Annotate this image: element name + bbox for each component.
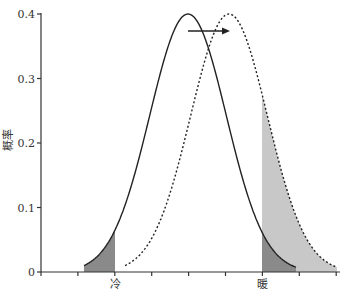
x-category-label: 冷 xyxy=(110,278,121,291)
probability-shift-chart: 00.10.20.30.4冷暖 概率 xyxy=(0,0,347,298)
shift-arrow xyxy=(188,28,230,35)
cold-tail-original-shade xyxy=(84,230,115,272)
shaded-tails xyxy=(84,94,337,272)
shifted-distribution-curve xyxy=(125,14,337,267)
x-category-label: 暖 xyxy=(257,278,268,291)
hot-tail-shifted-shade xyxy=(262,94,337,272)
y-tick-label: 0 xyxy=(28,266,35,279)
y-tick-label: 0.3 xyxy=(18,73,36,86)
y-tick-label: 0.2 xyxy=(18,137,36,150)
arrow-head-icon xyxy=(222,28,230,35)
y-tick-label: 0.4 xyxy=(18,8,36,21)
y-axis-label: 概率 xyxy=(1,129,15,151)
y-tick-label: 0.1 xyxy=(18,202,36,215)
